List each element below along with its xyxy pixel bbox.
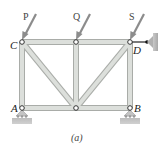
load-label-s: S [129,11,135,22]
wall-support [153,33,158,51]
joint-label-d: D [132,44,141,56]
joint-a [20,106,25,111]
figure-caption: (a) [71,132,83,144]
joint-bottom-middle [74,106,79,111]
truss-members [22,42,130,108]
joint-label-c: C [10,39,18,51]
joint-top-middle [74,40,79,45]
joint-d [128,40,133,45]
joint-b [128,106,133,111]
wall-bracket [147,36,153,48]
joint-c [20,40,25,45]
joint-label-b: B [134,102,141,114]
load-label-q: Q [73,11,81,22]
joint-label-a: A [10,102,18,114]
load-arrows [22,14,144,40]
truss-diagram: P Q S C D A B (a) [0,0,168,152]
load-label-p: P [23,11,29,22]
